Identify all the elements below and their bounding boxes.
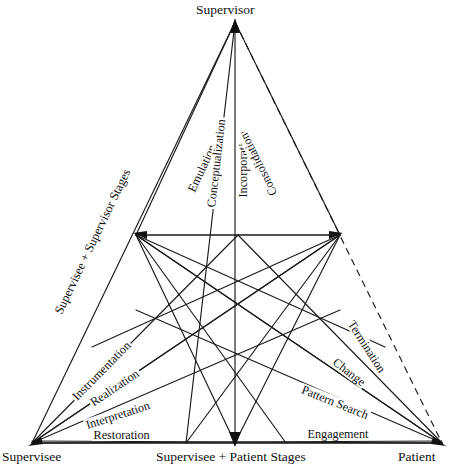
node-supervisor	[230, 18, 240, 33]
stage-model-diagram: Supervisor Supervisee Patient Supervisee…	[0, 0, 464, 466]
axis-label-supervisee-patient-stages: Supervisee + Patient Stages	[156, 450, 306, 464]
vertex-label-patient: Patient	[398, 450, 436, 464]
node-bottom-mid	[229, 432, 241, 447]
edge-interpretation	[32, 310, 340, 443]
stage-label-restoration: Restoration	[92, 429, 151, 441]
edge-midright-leftdiag-b	[92, 235, 340, 347]
vertex-label-supervisee: Supervisee	[2, 450, 61, 464]
edge-pattern-search	[136, 310, 442, 443]
node-supervisee	[28, 437, 43, 446]
edge-change	[136, 235, 442, 443]
edge-midright-bottommid	[235, 235, 340, 443]
node-patient	[431, 437, 446, 446]
edge-consolidation	[235, 22, 340, 235]
stage-label-engagement: Engagement	[306, 428, 370, 440]
edge-conceptualization	[186, 22, 235, 443]
page-title-supervisor: Supervisor	[196, 3, 255, 17]
